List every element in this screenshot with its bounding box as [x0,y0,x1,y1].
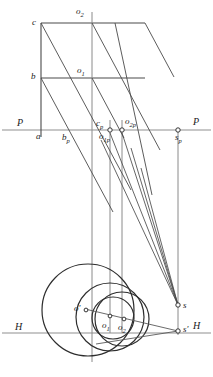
label-sp-sub: p [179,137,182,144]
label-p-left: P [17,118,23,128]
point-marker-s [176,303,180,307]
label-o1-low-sub: 1 [107,325,110,332]
label-c: c [32,18,36,27]
label-a: a [36,132,41,141]
label-bp: bp [62,133,70,144]
label-sp: sp [175,133,182,144]
convergent-ray-bundle [101,133,178,305]
oblique-ray-from-level-c-right [145,23,174,77]
label-cp-sub: p [100,123,103,130]
label-o1p-sub: 1p [104,136,111,143]
label-o1-mid-sub: 1 [82,70,85,77]
label-bp-sub: p [67,137,70,144]
point-marker-o2-low [122,317,126,321]
point-marker-o1-low [108,314,112,318]
label-o1-low: o1 [102,321,110,332]
label-o2-top-sub: 2 [81,11,84,18]
point-marker-o2p [120,128,124,132]
label-h-left: H [15,322,22,332]
label-o1p: o1p [99,132,110,143]
label-o-prime: o' [74,304,80,313]
oblique-ray-from-c [41,23,131,190]
label-o2-top: o2 [76,7,84,18]
label-o2-low-sub: 2 [123,327,126,334]
label-o2p: o2p [125,117,136,128]
label-o1-mid: o1 [77,66,85,77]
label-s-prime: s' [183,325,188,334]
label-o2p-sub: 2p [130,121,137,128]
oblique-ray-from-b [41,78,113,212]
label-s: s [183,301,187,310]
technical-drawing-figure: P P H H c b a o2 o1 bp cp o1p o2p sp s s… [0,0,213,377]
label-h-right: H [193,321,200,331]
label-o2-low: o2 [118,323,126,334]
point-marker-s-prime [176,329,180,333]
label-cp: cp [96,119,103,130]
point-marker-o-prime [84,308,88,312]
label-b: b [31,72,36,81]
label-p-right: P [193,117,199,127]
